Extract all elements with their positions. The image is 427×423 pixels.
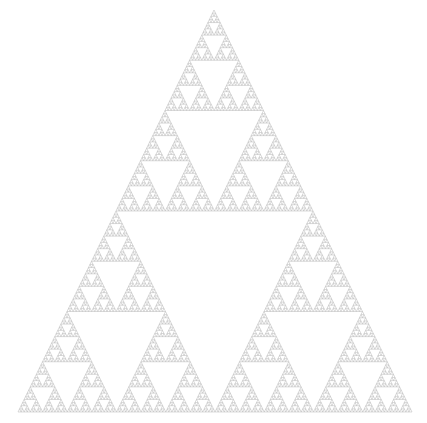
sierpinski-canvas <box>0 0 427 423</box>
